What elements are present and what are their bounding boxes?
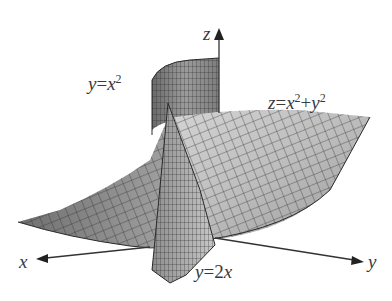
label-term-1: x [286,92,294,113]
parabolic-cylinder-label: y=x2 [88,74,122,93]
y-axis-label: y [368,252,376,271]
label-eq: = [96,73,107,94]
surface-diagram [0,0,392,301]
label-term-2: y [311,92,319,113]
label-coefficient: 2 [214,261,224,282]
label-plus: + [301,92,312,113]
label-term: x [107,73,115,94]
label-exponent: 2 [116,72,122,86]
x-axis-arrowhead [36,254,48,263]
label-exponent-2: 2 [320,91,326,105]
label-eq: = [275,92,286,113]
y-axis-arrowhead [351,256,364,265]
x-axis-label: x [19,252,27,271]
label-eq: = [203,261,214,282]
z-axis-arrowhead [214,28,224,40]
plane-label: y=2x [195,262,232,281]
label-variable: x [224,261,232,282]
paraboloid-label: z=x2+y2 [268,93,326,112]
x-axis [46,247,150,258]
y-axis [215,238,354,260]
z-axis-label: z [203,24,210,43]
